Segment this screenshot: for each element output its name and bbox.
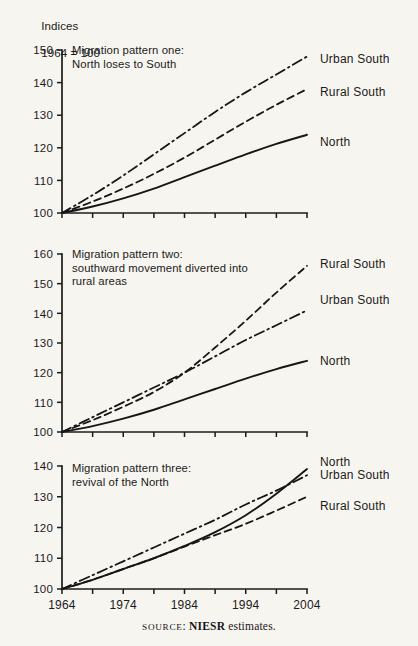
chart-title-line: rural areas: [72, 275, 127, 287]
source-rest: estimates.: [225, 620, 276, 632]
x-tick-label: 2004: [293, 598, 321, 612]
y-tick-label: 120: [33, 142, 53, 154]
series-curve-rural-south: [62, 497, 307, 589]
series-label-urban-south: Urban South: [320, 468, 390, 482]
y-tick-label: 130: [33, 109, 53, 121]
series-label-rural-south: Rural South: [320, 257, 386, 271]
chart-title-line: Migration pattern three:: [72, 462, 191, 474]
source-prefix-label: SOURCE: [142, 622, 182, 632]
chart-title-line: revival of the North: [72, 476, 169, 488]
y-tick-label: 150: [33, 278, 53, 290]
source-organisation: NIESR: [189, 620, 225, 632]
series-curve-rural-south: [62, 89, 307, 213]
chart-svg: 100110120130140150Migration pattern one:…: [0, 30, 418, 230]
y-tick-label: 110: [34, 397, 53, 409]
y-tick-label: 160: [33, 248, 53, 260]
y-tick-label: 100: [33, 207, 53, 219]
chart-title-line: North loses to South: [72, 58, 176, 70]
y-tick-label: 110: [34, 175, 53, 187]
chart-svg: 10011012013014019641974198419942004Migra…: [0, 452, 418, 617]
series-label-rural-south: Rural South: [320, 499, 386, 513]
chart-svg: 100110120130140150160Migration pattern t…: [0, 238, 418, 446]
y-tick-label: 100: [33, 583, 53, 595]
series-curve-urban-south: [62, 475, 307, 589]
chart-panel-migration-pattern-three: 10011012013014019641974198419942004Migra…: [0, 452, 418, 617]
chart-title-line: Migration pattern two:: [72, 248, 183, 260]
chart-title-line: Migration pattern one:: [72, 44, 184, 56]
y-tick-label: 120: [33, 367, 53, 379]
series-label-north: North: [320, 455, 350, 469]
y-tick-label: 140: [33, 77, 53, 89]
y-tick-label: 130: [33, 337, 53, 349]
series-curve-urban-south: [62, 57, 307, 213]
y-tick-label: 100: [33, 426, 53, 438]
x-tick-label: 1974: [110, 598, 138, 612]
series-label-rural-south: Rural South: [320, 85, 386, 99]
chart-panel-migration-pattern-one: 100110120130140150Migration pattern one:…: [0, 30, 418, 230]
x-tick-label: 1994: [232, 598, 260, 612]
x-tick-label: 1984: [171, 598, 199, 612]
chart-title-line: southward movement diverted into: [72, 262, 248, 274]
series-label-urban-south: Urban South: [320, 52, 390, 66]
y-tick-label: 140: [33, 308, 53, 320]
y-tick-label: 130: [33, 491, 53, 503]
series-curve-rural-south: [62, 266, 307, 432]
series-curve-north: [62, 361, 307, 432]
chart-panel-migration-pattern-two: 100110120130140150160Migration pattern t…: [0, 238, 418, 446]
series-label-north: North: [320, 135, 350, 149]
x-tick-label: 1964: [48, 598, 76, 612]
series-curve-north: [62, 135, 307, 213]
source-note: SOURCE: NIESR estimates.: [0, 620, 418, 632]
y-tick-label: 150: [33, 44, 53, 56]
y-tick-label: 120: [33, 522, 53, 534]
series-label-north: North: [320, 354, 350, 368]
y-tick-label: 110: [34, 552, 53, 564]
figure-page: Indices 1964 = 100 100110120130140150Mig…: [0, 0, 418, 646]
series-label-urban-south: Urban South: [320, 293, 390, 307]
y-tick-label: 140: [33, 460, 53, 472]
